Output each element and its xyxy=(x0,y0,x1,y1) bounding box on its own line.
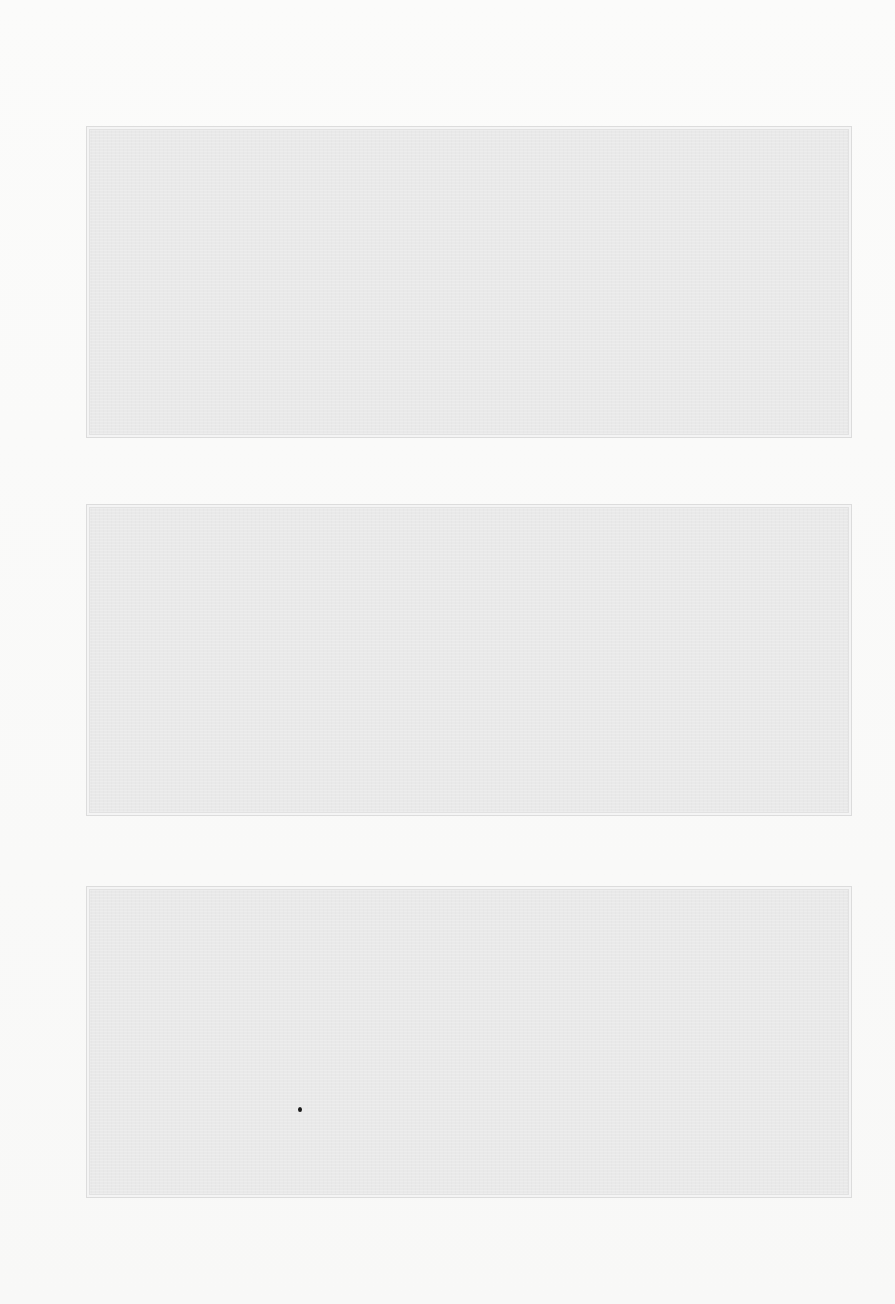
blank-panel-3 xyxy=(86,886,852,1198)
ink-speck xyxy=(298,1107,302,1112)
blank-panel-2 xyxy=(86,504,852,816)
document-page xyxy=(0,0,895,1304)
blank-panel-1 xyxy=(86,126,852,438)
